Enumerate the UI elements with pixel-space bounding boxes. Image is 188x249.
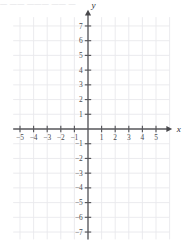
y-tick-label: 3 (79, 80, 83, 89)
y-tick-label: 1 (79, 110, 83, 119)
x-tick-label: 4 (141, 133, 145, 142)
x-tick-label: −3 (43, 133, 51, 142)
y-tick-label: 5 (79, 51, 83, 60)
x-tick-label: 2 (113, 133, 117, 142)
y-tick-label: 2 (79, 95, 83, 104)
x-axis-label: x (176, 124, 182, 134)
y-tick-label: −7 (75, 228, 83, 237)
y-tick-label: −5 (75, 198, 83, 207)
y-tick-label: 4 (79, 66, 83, 75)
vertical-gridlines (20, 17, 170, 239)
y-tick-label: 6 (79, 36, 83, 45)
x-tick-label: 1 (100, 133, 104, 142)
y-tick-label: −3 (75, 169, 83, 178)
y-tick-label: −1 (75, 139, 83, 148)
y-tick-label: 7 (79, 22, 83, 31)
x-tick-label: −5 (16, 133, 24, 142)
y-tick-label: −6 (75, 213, 83, 222)
y-axis-arrowhead (85, 10, 91, 16)
coordinate-plane: −5−4−3−2−112345 7654321−1−2−3−4−5−6−7 x … (0, 0, 188, 249)
x-axis-tick-labels: −5−4−3−2−112345 (16, 133, 158, 142)
x-tick-label: 3 (127, 133, 131, 142)
y-axis-label: y (91, 0, 97, 10)
x-tick-label: −4 (30, 133, 38, 142)
x-tick-label: 5 (154, 133, 158, 142)
y-tick-label: −4 (75, 183, 83, 192)
y-tick-label: −2 (75, 154, 83, 163)
x-tick-label: −2 (57, 133, 65, 142)
coordinate-grid-svg: −5−4−3−2−112345 7654321−1−2−3−4−5−6−7 x … (0, 0, 188, 249)
axes-group (13, 10, 172, 240)
